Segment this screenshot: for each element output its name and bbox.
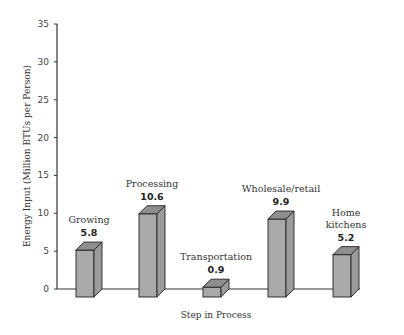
y-tick-label: 15 (38, 170, 49, 180)
bar-category-label: Wholesale/retail (242, 183, 320, 194)
bars: Growing5.8Processing10.6Transportation0.… (68, 178, 366, 297)
bar-category-label: Home (332, 207, 361, 218)
bar-category-label: Transportation (180, 251, 252, 262)
bar-value-label: 0.9 (208, 264, 225, 275)
bar-value-label: 9.9 (273, 196, 290, 207)
bar-growing: Growing5.8 (68, 214, 109, 297)
y-tick-label: 5 (43, 246, 49, 256)
bar-category-label: Processing (126, 178, 179, 189)
bar-value-label: 10.6 (140, 191, 164, 202)
bar-chart: 05101520253035 Growing5.8Processing10.6T… (0, 0, 404, 335)
bar-value-label: 5.8 (81, 227, 98, 238)
y-tick-label: 30 (38, 57, 50, 67)
y-tick-label: 35 (38, 19, 49, 29)
bar-wholesale-retail: Wholesale/retail9.9 (242, 183, 320, 297)
y-axis: 05101520253035 (38, 19, 57, 294)
bar-category-label: kitchens (326, 219, 367, 230)
bar-processing: Processing10.6 (126, 178, 179, 297)
y-tick-label: 0 (43, 284, 49, 294)
bar-value-label: 5.2 (338, 232, 355, 243)
bar-home-kitchens: Homekitchens5.2 (326, 207, 367, 297)
bar-category-label: Growing (68, 214, 109, 225)
y-tick-label: 25 (38, 95, 49, 105)
y-tick-label: 20 (38, 133, 50, 143)
bar-transportation: Transportation0.9 (180, 251, 252, 297)
y-tick-label: 10 (38, 208, 50, 218)
y-axis-title: Energy Input (Million BTUs per Person) (22, 65, 32, 247)
x-axis-title: Step in Process (181, 310, 252, 320)
